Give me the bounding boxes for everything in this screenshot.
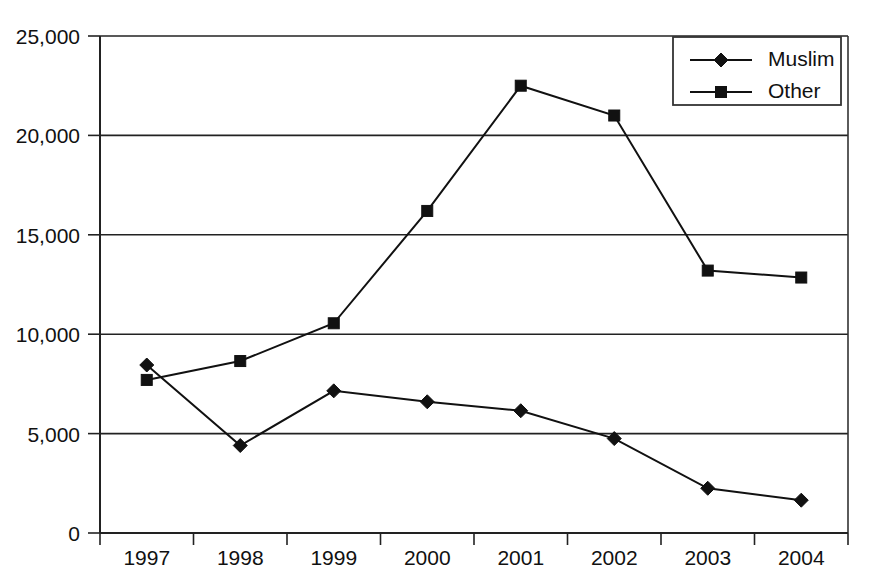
y-axis-tick-label: 5,000	[27, 423, 80, 446]
x-axis-tick-labels: 19971998199920002001200220032004	[123, 546, 825, 569]
y-axis-tick-labels: 25,00020,00015,00010,0005,0000	[16, 25, 80, 545]
data-point-marker	[235, 356, 246, 367]
y-axis-tick-label: 25,000	[16, 25, 80, 48]
data-point-marker	[515, 80, 526, 91]
y-axis-tick-label: 10,000	[16, 323, 80, 346]
x-axis-tick-label: 1998	[217, 546, 264, 569]
x-axis-tick-marks	[100, 533, 848, 545]
x-axis-tick-label: 2004	[778, 546, 825, 569]
data-point-marker	[328, 318, 339, 329]
y-axis-tick-label: 0	[68, 522, 80, 545]
x-axis-tick-label: 1997	[123, 546, 170, 569]
x-axis-tick-label: 2001	[497, 546, 544, 569]
x-axis-tick-label: 2003	[684, 546, 731, 569]
plot-area-background	[100, 36, 848, 533]
x-axis-tick-label: 2002	[591, 546, 638, 569]
chart-canvas: 25,00020,00015,00010,0005,0000 199719981…	[0, 0, 870, 587]
chart-legend: MuslimOther	[673, 37, 841, 105]
y-axis-tick-marks	[88, 36, 100, 533]
legend-sample-marker	[716, 87, 727, 98]
line-chart: 25,00020,00015,00010,0005,0000 199719981…	[0, 0, 870, 587]
y-axis-tick-label: 15,000	[16, 224, 80, 247]
data-point-marker	[796, 272, 807, 283]
x-axis-tick-label: 2000	[404, 546, 451, 569]
data-point-marker	[141, 374, 152, 385]
data-point-marker	[422, 205, 433, 216]
x-axis-tick-label: 1999	[310, 546, 357, 569]
data-point-marker	[609, 110, 620, 121]
legend-item-label: Muslim	[768, 47, 835, 70]
data-point-marker	[702, 265, 713, 276]
y-axis-tick-label: 20,000	[16, 124, 80, 147]
legend-item-label: Other	[768, 79, 821, 102]
